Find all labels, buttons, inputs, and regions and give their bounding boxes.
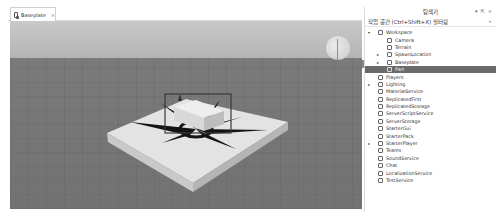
tree-item-workspace[interactable]: ▾Workspace [365, 29, 496, 36]
tree-item-label: Workspace [386, 30, 412, 35]
explorer-header: 탐색기 ▾ ⇱ × [365, 7, 496, 17]
localization-service-icon [378, 171, 383, 176]
tree-item-replicatedfirst[interactable]: ReplicatedFirst [365, 96, 496, 103]
filter-input[interactable]: 작업 공간 (Ctrl+Shift+X) 필터링 ▾ [365, 17, 496, 27]
part-icon [387, 67, 392, 72]
explorer-tree: ▾WorkspaceCameraTerrain▸SpawnLocation▸Ba… [365, 27, 496, 184]
spawn-location-icon [387, 52, 392, 57]
tree-item-label: Players [386, 75, 403, 80]
terrain-icon [387, 45, 392, 50]
tree-item-baseplate[interactable]: ▸Baseplate [365, 59, 496, 66]
tree-item-spawnlocation[interactable]: ▸SpawnLocation [365, 51, 496, 58]
camera-icon [387, 38, 392, 43]
tree-item-soundservice[interactable]: SoundService [365, 155, 496, 162]
tree-item-label: Chat [386, 163, 397, 168]
test-service-icon [378, 178, 383, 183]
tree-item-label: ReplicatedStorage [386, 104, 430, 109]
tab-baseplate[interactable]: Baseplate × [10, 7, 56, 21]
teams-icon [378, 148, 383, 153]
tree-item-teams[interactable]: Teams [365, 147, 496, 154]
expand-arrow-icon[interactable]: ▸ [377, 60, 379, 65]
sound-service-icon [378, 156, 383, 161]
explorer-title: 탐색기 [423, 8, 438, 16]
dropdown-icon[interactable]: ▾ [475, 8, 478, 14]
place-icon [14, 12, 18, 18]
tree-item-replicatedstorage[interactable]: ReplicatedStorage [365, 103, 496, 110]
close-icon[interactable]: × [51, 12, 55, 18]
scene [10, 21, 362, 209]
tree-item-label: Baseplate [395, 60, 419, 65]
studio-window: Baseplate × [0, 0, 496, 219]
expand-arrow-icon[interactable]: ▸ [368, 82, 370, 87]
tree-item-label: LocalizationService [386, 171, 432, 176]
document-tab-strip: Baseplate × [8, 7, 362, 21]
tree-item-label: Lighting [386, 82, 405, 87]
tree-item-label: SpawnLocation [395, 52, 431, 57]
tree-item-serverstorage[interactable]: ServerStorage [365, 118, 496, 125]
tree-item-label: Terrain [395, 45, 411, 50]
tree-item-label: StarterPlayer [386, 141, 418, 146]
tree-item-label: ServerScriptService [386, 111, 433, 116]
3d-viewport[interactable] [10, 21, 362, 209]
tree-item-label: ReplicatedFirst [386, 97, 421, 102]
tree-item-label: Teams [386, 148, 401, 153]
tree-item-label: Camera [395, 38, 414, 43]
tree-item-label: ServerStorage [386, 119, 421, 124]
collapse-arrow-icon[interactable]: ▾ [368, 30, 370, 35]
undock-icon[interactable]: ⇱ [481, 8, 485, 14]
tree-item-label: MaterialService [386, 89, 423, 94]
starter-player-icon [378, 141, 383, 146]
tree-item-lighting[interactable]: ▸Lighting [365, 81, 496, 88]
material-service-icon [378, 89, 383, 94]
view-cube[interactable] [326, 36, 350, 60]
tree-item-camera[interactable]: Camera [365, 36, 496, 43]
tree-item-chat[interactable]: Chat [365, 162, 496, 169]
explorer-panel: 탐색기 ▾ ⇱ × 작업 공간 (Ctrl+Shift+X) 필터링 ▾ ▾Wo… [364, 7, 496, 212]
tree-item-label: SoundService [386, 156, 419, 161]
tree-item-startergui[interactable]: StarterGui [365, 125, 496, 132]
chevron-down-icon[interactable]: ▾ [489, 19, 491, 24]
tab-label: Baseplate [21, 12, 46, 18]
chat-icon [378, 163, 383, 168]
filter-placeholder: 작업 공간 (Ctrl+Shift+X) 필터링 [368, 18, 448, 26]
server-storage-icon [378, 119, 383, 124]
replicated-storage-icon [378, 104, 383, 109]
tree-item-part[interactable]: Part [365, 66, 496, 73]
tree-item-label: Part [395, 67, 404, 72]
tree-item-materialservice[interactable]: MaterialService [365, 88, 496, 95]
tree-item-serverscriptservice[interactable]: ServerScriptService [365, 110, 496, 117]
part-icon [387, 60, 392, 65]
tree-item-label: TestService [386, 178, 413, 183]
tree-item-starterplayer[interactable]: ▸StarterPlayer [365, 140, 496, 147]
players-icon [378, 75, 383, 80]
starter-gui-icon [378, 126, 383, 131]
replicated-first-icon [378, 97, 383, 102]
server-script-service-icon [378, 111, 383, 116]
starter-pack-icon [378, 134, 383, 139]
lighting-icon [378, 82, 383, 87]
tree-item-testservice[interactable]: TestService [365, 177, 496, 184]
expand-arrow-icon[interactable]: ▸ [368, 141, 370, 146]
tree-item-terrain[interactable]: Terrain [365, 44, 496, 51]
tree-item-label: StarterGui [386, 126, 411, 131]
expand-arrow-icon[interactable]: ▸ [377, 52, 379, 57]
tree-item-label: StarterPack [386, 134, 414, 139]
workspace-icon [378, 30, 383, 35]
tree-item-localizationservice[interactable]: LocalizationService [365, 169, 496, 176]
close-icon[interactable]: × [488, 8, 492, 14]
tree-item-players[interactable]: Players [365, 73, 496, 80]
tree-item-starterpack[interactable]: StarterPack [365, 132, 496, 139]
